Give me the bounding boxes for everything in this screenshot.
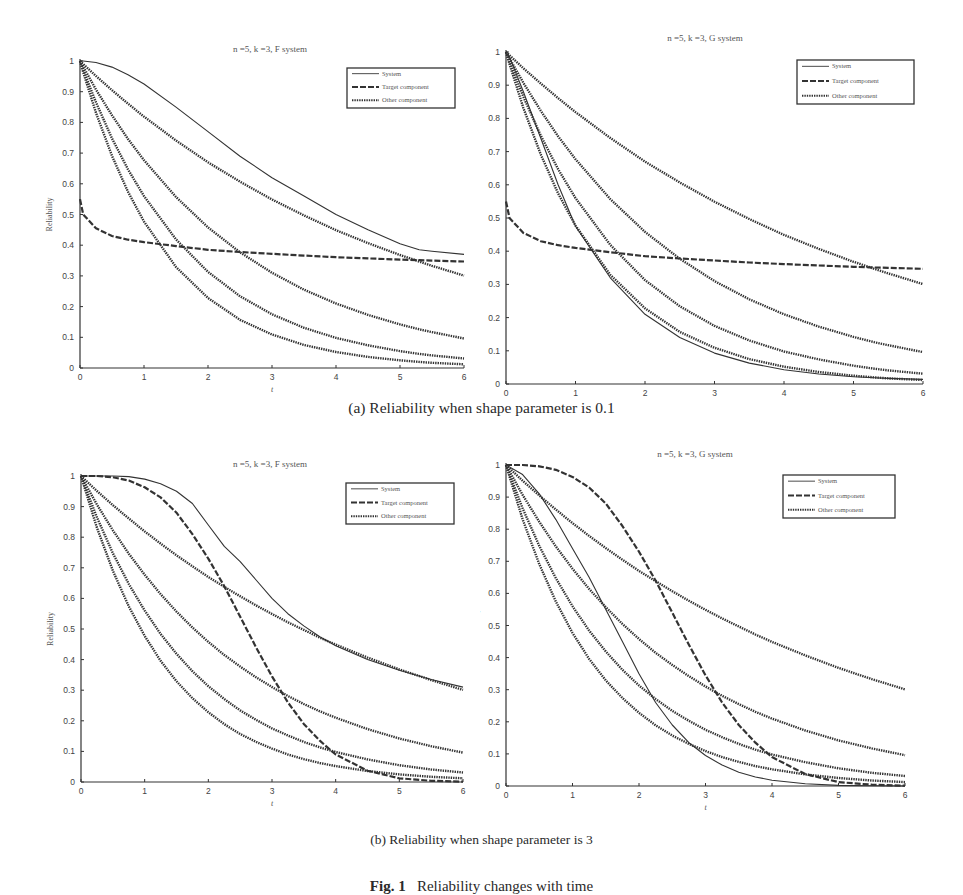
x-tick-label: 3 [712,388,717,398]
y-tick-label: 0.1 [63,746,75,756]
legend-target-label: Target component [818,492,865,499]
x-tick-label: 0 [78,372,83,382]
y-tick-label: 0.9 [63,502,75,512]
y-tick-label: 0.3 [63,685,75,695]
y-tick-label: 0.2 [62,302,74,312]
x-tick-label: 1 [573,388,578,398]
chart-title: n =5, k =3, G system [657,449,732,459]
y-tick-label: 0.6 [63,593,75,603]
x-tick-label: 1 [142,786,147,796]
chart-title: n =5, k =3, G system [667,33,742,43]
legend-system-label: System [382,70,401,77]
x-tick-label: 4 [333,786,338,796]
x-tick-label: 1 [570,790,575,800]
y-tick-label: 0 [495,781,500,791]
y-tick-label: 1 [69,56,74,66]
y-tick-label: 0.2 [63,716,75,726]
y-tick-label: 0.8 [488,113,500,123]
x-axis-label: t [704,803,707,812]
x-tick-label: 2 [206,786,211,796]
x-tick-label: 5 [851,388,856,398]
figure-caption: Fig. 1 Reliability changes with time [0,878,963,895]
y-tick-label: 0.3 [488,685,500,695]
y-tick-label: 0.9 [488,492,500,502]
x-tick-label: 6 [921,388,926,398]
y-tick-label: 0 [70,777,75,787]
x-tick-label: 2 [637,790,642,800]
x-axis-label: t [271,799,274,808]
y-tick-label: 0.1 [488,749,500,759]
chart-title: n =5, k =3, F system [233,44,307,54]
figure-caption-text: Reliability changes with time [417,878,593,894]
legend-target-label: Target component [382,83,429,90]
y-tick-label: 0.5 [63,624,75,634]
chart-b-right-svg: n =5, k =3, G system00.10.20.30.40.50.60… [480,420,963,830]
chart-b-left-svg: n =5, k =3, F system00.10.20.30.40.50.60… [0,420,480,830]
x-tick-label: 6 [903,790,908,800]
y-tick-label: 0.9 [488,80,500,90]
chart-title: n =5, k =3, F system [233,459,307,469]
y-tick-label: 0.1 [62,332,74,342]
y-tick-label: 0.7 [62,148,74,158]
y-tick-label: 1 [495,47,500,57]
y-tick-label: 0.8 [63,532,75,542]
y-tick-label: 0.9 [62,87,74,97]
legend-target-label: Target component [381,499,428,506]
legend-system-label: System [381,485,400,492]
legend-other-label: Other component [382,96,428,103]
legend-system-label: System [818,477,837,484]
x-tick-label: 3 [270,786,275,796]
y-tick-label: 0.2 [488,313,500,323]
x-tick-label: 4 [770,790,775,800]
x-tick-label: 5 [397,786,402,796]
chart-b-left: n =5, k =3, F system00.10.20.30.40.50.60… [0,420,480,830]
y-tick-label: 0.5 [62,210,74,220]
y-tick-label: 0.6 [488,180,500,190]
y-axis-label: Reliability [46,612,55,646]
y-tick-label: 0.3 [62,271,74,281]
x-tick-label: 4 [782,388,787,398]
caption-a: (a) Reliability when shape parameter is … [0,399,963,417]
y-tick-label: 0.6 [488,588,500,598]
y-tick-label: 0.7 [488,147,500,157]
legend-target-label: Target component [832,77,879,84]
caption-b: (b) Reliability when shape parameter is … [0,832,963,848]
x-tick-label: 5 [836,790,841,800]
x-tick-label: 3 [703,790,708,800]
y-tick-label: 0.7 [488,556,500,566]
y-axis-label: Reliability [45,198,54,232]
x-tick-label: 0 [79,786,84,796]
x-tick-label: 1 [142,372,147,382]
y-tick-label: 0.2 [488,717,500,727]
y-tick-label: 0.3 [488,279,500,289]
y-tick-label: 1 [70,471,75,481]
x-tick-label: 6 [461,786,466,796]
legend-other-label: Other component [818,506,864,513]
chart-a-right-svg: n =5, k =3, G system00.10.20.30.40.50.60… [480,0,963,400]
y-tick-label: 0 [495,379,500,389]
x-tick-label: 2 [206,372,211,382]
y-tick-label: 0.4 [62,240,74,250]
chart-a-left: n =5, k =3, F system00.10.20.30.40.50.60… [0,0,480,400]
y-tick-label: 0.4 [488,653,500,663]
chart-a-left-svg: n =5, k =3, F system00.10.20.30.40.50.60… [0,0,480,400]
y-tick-label: 0.8 [62,117,74,127]
y-tick-label: 0 [69,363,74,373]
y-tick-label: 0.5 [488,621,500,631]
y-tick-label: 0.5 [488,213,500,223]
chart-b-right: n =5, k =3, G system00.10.20.30.40.50.60… [480,420,963,830]
x-tick-label: 3 [270,372,275,382]
legend-other-label: Other component [832,92,878,99]
x-tick-label: 4 [334,372,339,382]
x-tick-label: 0 [504,790,509,800]
x-tick-label: 6 [462,372,467,382]
y-tick-label: 1 [495,460,500,470]
x-tick-label: 5 [398,372,403,382]
x-tick-label: 2 [643,388,648,398]
y-tick-label: 0.7 [63,563,75,573]
legend-other-label: Other component [381,512,427,519]
figure-label: Fig. 1 [370,878,406,894]
y-tick-label: 0.6 [62,179,74,189]
y-tick-label: 0.4 [63,655,75,665]
legend-system-label: System [832,62,851,69]
